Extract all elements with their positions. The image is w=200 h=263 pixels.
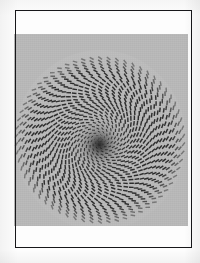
figure-page: [0, 0, 200, 263]
plate-border-frame: [15, 10, 192, 248]
figure-caption: [15, 226, 192, 248]
